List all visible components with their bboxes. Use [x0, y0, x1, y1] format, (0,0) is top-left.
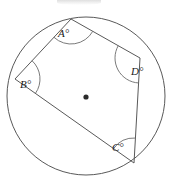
angle-arc-b — [32, 61, 40, 94]
geometry-canvas — [0, 0, 174, 189]
geometry-figure: A° B° C° D° — [0, 0, 174, 189]
angle-label-d: D° — [131, 66, 143, 77]
angle-label-b: B° — [20, 79, 31, 90]
angle-label-a: A° — [58, 28, 69, 39]
angle-label-c: C° — [112, 142, 124, 153]
side-da — [71, 19, 140, 58]
circle-center-dot — [83, 94, 88, 99]
